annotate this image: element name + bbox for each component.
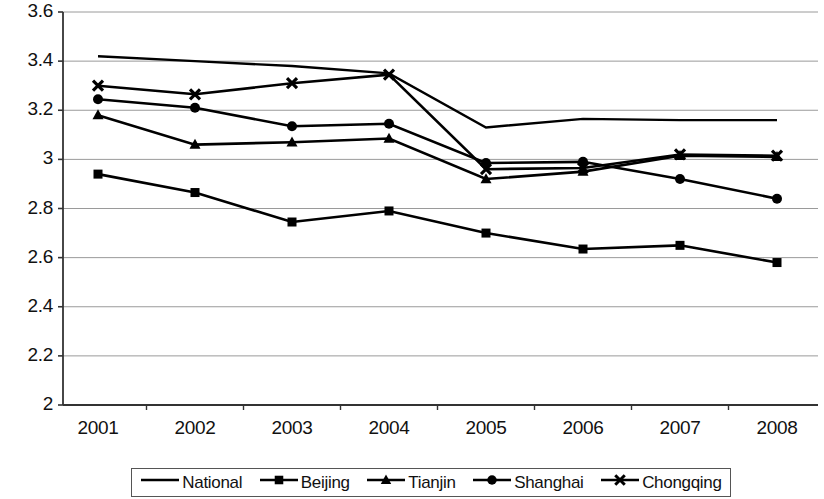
legend-marker-square-icon: [259, 471, 299, 494]
x-tick-label: 2003: [247, 417, 337, 439]
y-tick-label: 3.2: [0, 98, 53, 120]
series-line: [98, 56, 777, 127]
x-tick-label: 2008: [732, 417, 822, 439]
x-tick-label: 2002: [150, 417, 240, 439]
marker-square: [773, 258, 782, 267]
y-tick-label: 3: [0, 147, 53, 169]
legend-label: Chongqing: [641, 473, 722, 493]
series-layer: [93, 56, 783, 267]
legend-marker-triangle-icon: [366, 471, 406, 494]
marker-square: [385, 206, 394, 215]
series-national: [98, 56, 777, 127]
marker-circle: [287, 121, 297, 131]
x-tick-label: 2001: [53, 417, 143, 439]
y-tick-label: 2.8: [0, 197, 53, 219]
legend-label: Tianjin: [407, 473, 455, 493]
marker-triangle: [93, 109, 104, 119]
legend-marker-circle-icon: [472, 471, 512, 494]
series-line: [98, 174, 777, 262]
marker-square: [275, 476, 284, 485]
line-chart: 3.63.43.232.82.62.42.22 2001200220032004…: [0, 0, 824, 499]
legend-item-tianjin: Tianjin: [366, 471, 455, 494]
series-line: [98, 115, 777, 179]
y-tick-label: 2.4: [0, 295, 53, 317]
x-tick-label: 2004: [344, 417, 434, 439]
series-line: [98, 75, 777, 170]
marker-circle: [93, 94, 103, 104]
y-tick-label: 3.6: [0, 0, 53, 22]
legend-item-chongqing: Chongqing: [600, 471, 722, 494]
legend-label: Beijing: [300, 473, 350, 493]
marker-square: [191, 188, 200, 197]
y-tick-label: 2: [0, 393, 53, 415]
marker-square: [94, 170, 103, 179]
series-line: [98, 99, 777, 198]
x-tick-label: 2007: [635, 417, 725, 439]
marker-circle: [384, 119, 394, 129]
marker-circle: [675, 174, 685, 184]
gridlines: [63, 12, 818, 405]
y-tick-label: 3.4: [0, 49, 53, 71]
legend-label: National: [181, 473, 242, 493]
chart-legend: NationalBeijingTianjinShanghaiChongqing: [131, 468, 731, 497]
marker-square: [579, 245, 588, 254]
marker-square: [288, 218, 297, 227]
marker-circle: [772, 194, 782, 204]
axes: [58, 12, 818, 410]
legend-marker-x-icon: [600, 471, 640, 494]
x-tick-label: 2005: [441, 417, 531, 439]
legend-item-shanghai: Shanghai: [472, 471, 583, 494]
legend-item-national: National: [140, 471, 242, 494]
marker-circle: [190, 103, 200, 113]
series-beijing: [94, 170, 782, 267]
legend-label: Shanghai: [513, 473, 583, 493]
marker-square: [676, 241, 685, 250]
x-tick-label: 2006: [538, 417, 628, 439]
marker-circle: [487, 475, 497, 485]
legend-item-beijing: Beijing: [259, 471, 350, 494]
y-tick-label: 2.2: [0, 344, 53, 366]
marker-square: [482, 229, 491, 238]
y-tick-label: 2.6: [0, 246, 53, 268]
legend-marker-none-icon: [140, 471, 180, 494]
